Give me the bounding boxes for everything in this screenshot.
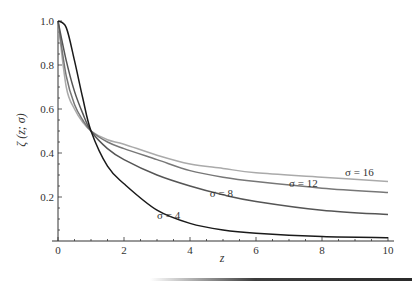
x-axis-title: z	[219, 251, 225, 265]
x-tick-label: 10	[383, 244, 395, 256]
x-tick-label: 6	[253, 244, 259, 256]
series-line	[58, 21, 388, 215]
series-label: σ = 12	[289, 177, 318, 189]
curves	[58, 21, 388, 238]
y-tick-label: 0.2	[40, 191, 54, 203]
series-line	[58, 21, 388, 238]
series-label: σ = 16	[345, 166, 374, 178]
curve-labels: σ = 16σ = 12σ = 8σ = 4	[157, 166, 374, 221]
y-tick-label: 0.6	[40, 103, 54, 115]
series-line	[58, 21, 388, 182]
x-tick-label: 4	[187, 244, 193, 256]
x-tick-label: 8	[319, 244, 325, 256]
y-axis-title: ζ (z; σ)	[14, 113, 28, 146]
x-tick-label: 0	[55, 244, 61, 256]
y-tick-label: 0.8	[40, 59, 54, 71]
series-label: σ = 4	[157, 209, 181, 221]
y-tick-label: 0.4	[40, 147, 54, 159]
series-label: σ = 8	[210, 187, 234, 199]
x-tick-label: 2	[121, 244, 127, 256]
y-tick-label: 1.0	[40, 15, 54, 27]
chart: 02468100.20.40.60.81.0 σ = 16σ = 12σ = 8…	[0, 0, 412, 281]
